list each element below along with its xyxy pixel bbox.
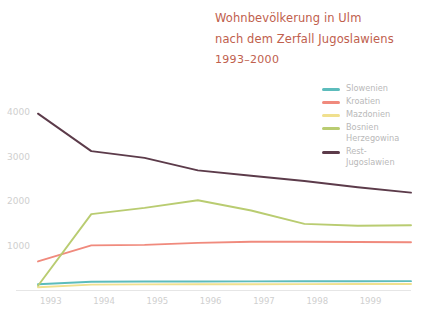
y-tick-label: 3000 (7, 152, 30, 162)
legend-swatch-kroatien (322, 101, 340, 104)
y-tick-label: 2000 (7, 196, 30, 206)
legend-item-rest-jugoslawien[interactable]: Rest- Jugoslawien (322, 146, 427, 168)
x-tick-label: 1997 (253, 296, 275, 306)
y-tick-label: 4000 (7, 107, 30, 117)
legend-swatch-bosnien-herzegowina (322, 127, 340, 130)
legend-swatch-slowenien (322, 88, 340, 91)
legend-item-kroatien[interactable]: Kroatien (322, 96, 427, 107)
legend-label-mazdonien: Mazdonien (346, 109, 390, 120)
x-tick-label: 1995 (147, 296, 169, 306)
chart-legend: Slowenien Kroatien Mazdonien Bosnien Her… (322, 83, 427, 170)
series-line-mazdonien (38, 284, 411, 287)
y-tick-label: 1000 (7, 241, 30, 251)
x-axis-ticks: 1993199419951996199719981999 (40, 296, 381, 306)
chart-container: Wohnbevölkerung in Ulm nach dem Zerfall … (0, 0, 427, 326)
legend-label-slowenien: Slowenien (346, 83, 388, 94)
legend-swatch-rest-jugoslawien (322, 151, 340, 154)
y-axis-ticks: 1000200030004000 (7, 107, 30, 251)
x-tick-label: 1993 (40, 296, 62, 306)
legend-item-mazdonien[interactable]: Mazdonien (322, 109, 427, 120)
legend-label-bosnien-herzegowina: Bosnien Herzegowina (346, 122, 399, 144)
x-tick-label: 1994 (93, 296, 115, 306)
legend-item-bosnien-herzegowina[interactable]: Bosnien Herzegowina (322, 122, 427, 144)
x-tick-label: 1996 (200, 296, 222, 306)
series-line-kroatien (38, 242, 411, 262)
x-tick-label: 1998 (306, 296, 328, 306)
legend-item-slowenien[interactable]: Slowenien (322, 83, 427, 94)
legend-label-rest-jugoslawien: Rest- Jugoslawien (346, 146, 395, 168)
legend-label-kroatien: Kroatien (346, 96, 380, 107)
legend-swatch-mazdonien (322, 114, 340, 117)
x-tick-label: 1999 (360, 296, 382, 306)
